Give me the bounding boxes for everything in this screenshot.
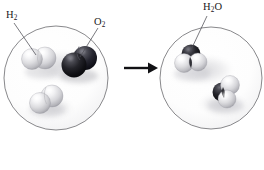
specular-highlight <box>39 50 45 54</box>
label-water-element: H <box>203 1 211 12</box>
label-oxygen: O2 <box>94 17 106 28</box>
label-water-subscript: 2 <box>211 6 215 14</box>
oxygen-atom <box>62 53 87 78</box>
hydrogen-atom <box>30 93 51 114</box>
specular-highlight <box>26 51 33 56</box>
label-water: H2O <box>203 2 222 13</box>
specular-highlight <box>225 78 231 82</box>
specular-highlight <box>178 56 184 60</box>
label-oxygen-element: O <box>94 16 102 27</box>
specular-highlight <box>222 93 228 97</box>
specular-highlight <box>46 88 52 92</box>
specular-highlight <box>193 55 199 59</box>
products-circle <box>160 27 262 129</box>
label-hydrogen-subscript: 2 <box>14 14 18 22</box>
reactants-circle <box>4 26 108 130</box>
reaction-arrow <box>124 63 158 74</box>
specular-highlight <box>34 95 41 100</box>
label-hydrogen-element: H <box>6 9 14 20</box>
specular-highlight <box>66 54 73 59</box>
hydrogen-molecule-upper <box>22 47 60 79</box>
specular-highlight <box>185 47 190 51</box>
label-oxygen-subscript: 2 <box>102 21 106 29</box>
reaction-diagram <box>0 0 264 170</box>
hydrogen-atom <box>218 90 236 108</box>
label-water-suffix: O <box>215 1 223 12</box>
arrow-head <box>148 63 158 74</box>
label-hydrogen: H2 <box>6 10 18 21</box>
